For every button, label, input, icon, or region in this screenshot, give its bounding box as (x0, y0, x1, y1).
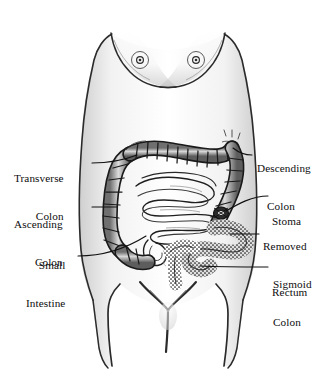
label-rectum-line1: Rectum (272, 286, 307, 299)
label-rectum: Rectum (272, 261, 307, 311)
label-removed-sigmoid-line3: Colon (263, 316, 312, 329)
label-small-intestine-line1: Small (14, 259, 65, 272)
label-descending-colon-line1: Descending (257, 162, 311, 175)
stoma (214, 207, 229, 219)
label-ascending-colon-line1: Ascending (14, 218, 63, 231)
label-removed-sigmoid-line1: Removed (263, 240, 312, 253)
label-transverse-colon-line1: Transverse (14, 172, 64, 185)
label-small-intestine-line2: Intestine (14, 297, 65, 310)
label-small-intestine: Small Intestine (14, 234, 65, 322)
